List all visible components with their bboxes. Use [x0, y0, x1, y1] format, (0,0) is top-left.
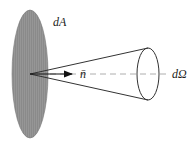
solid-angle-diagram: dA n̄ dΩ — [0, 0, 196, 146]
label-dOmega: dΩ — [172, 67, 187, 81]
label-normal: n̄ — [80, 67, 86, 81]
label-dA: dA — [53, 15, 67, 29]
